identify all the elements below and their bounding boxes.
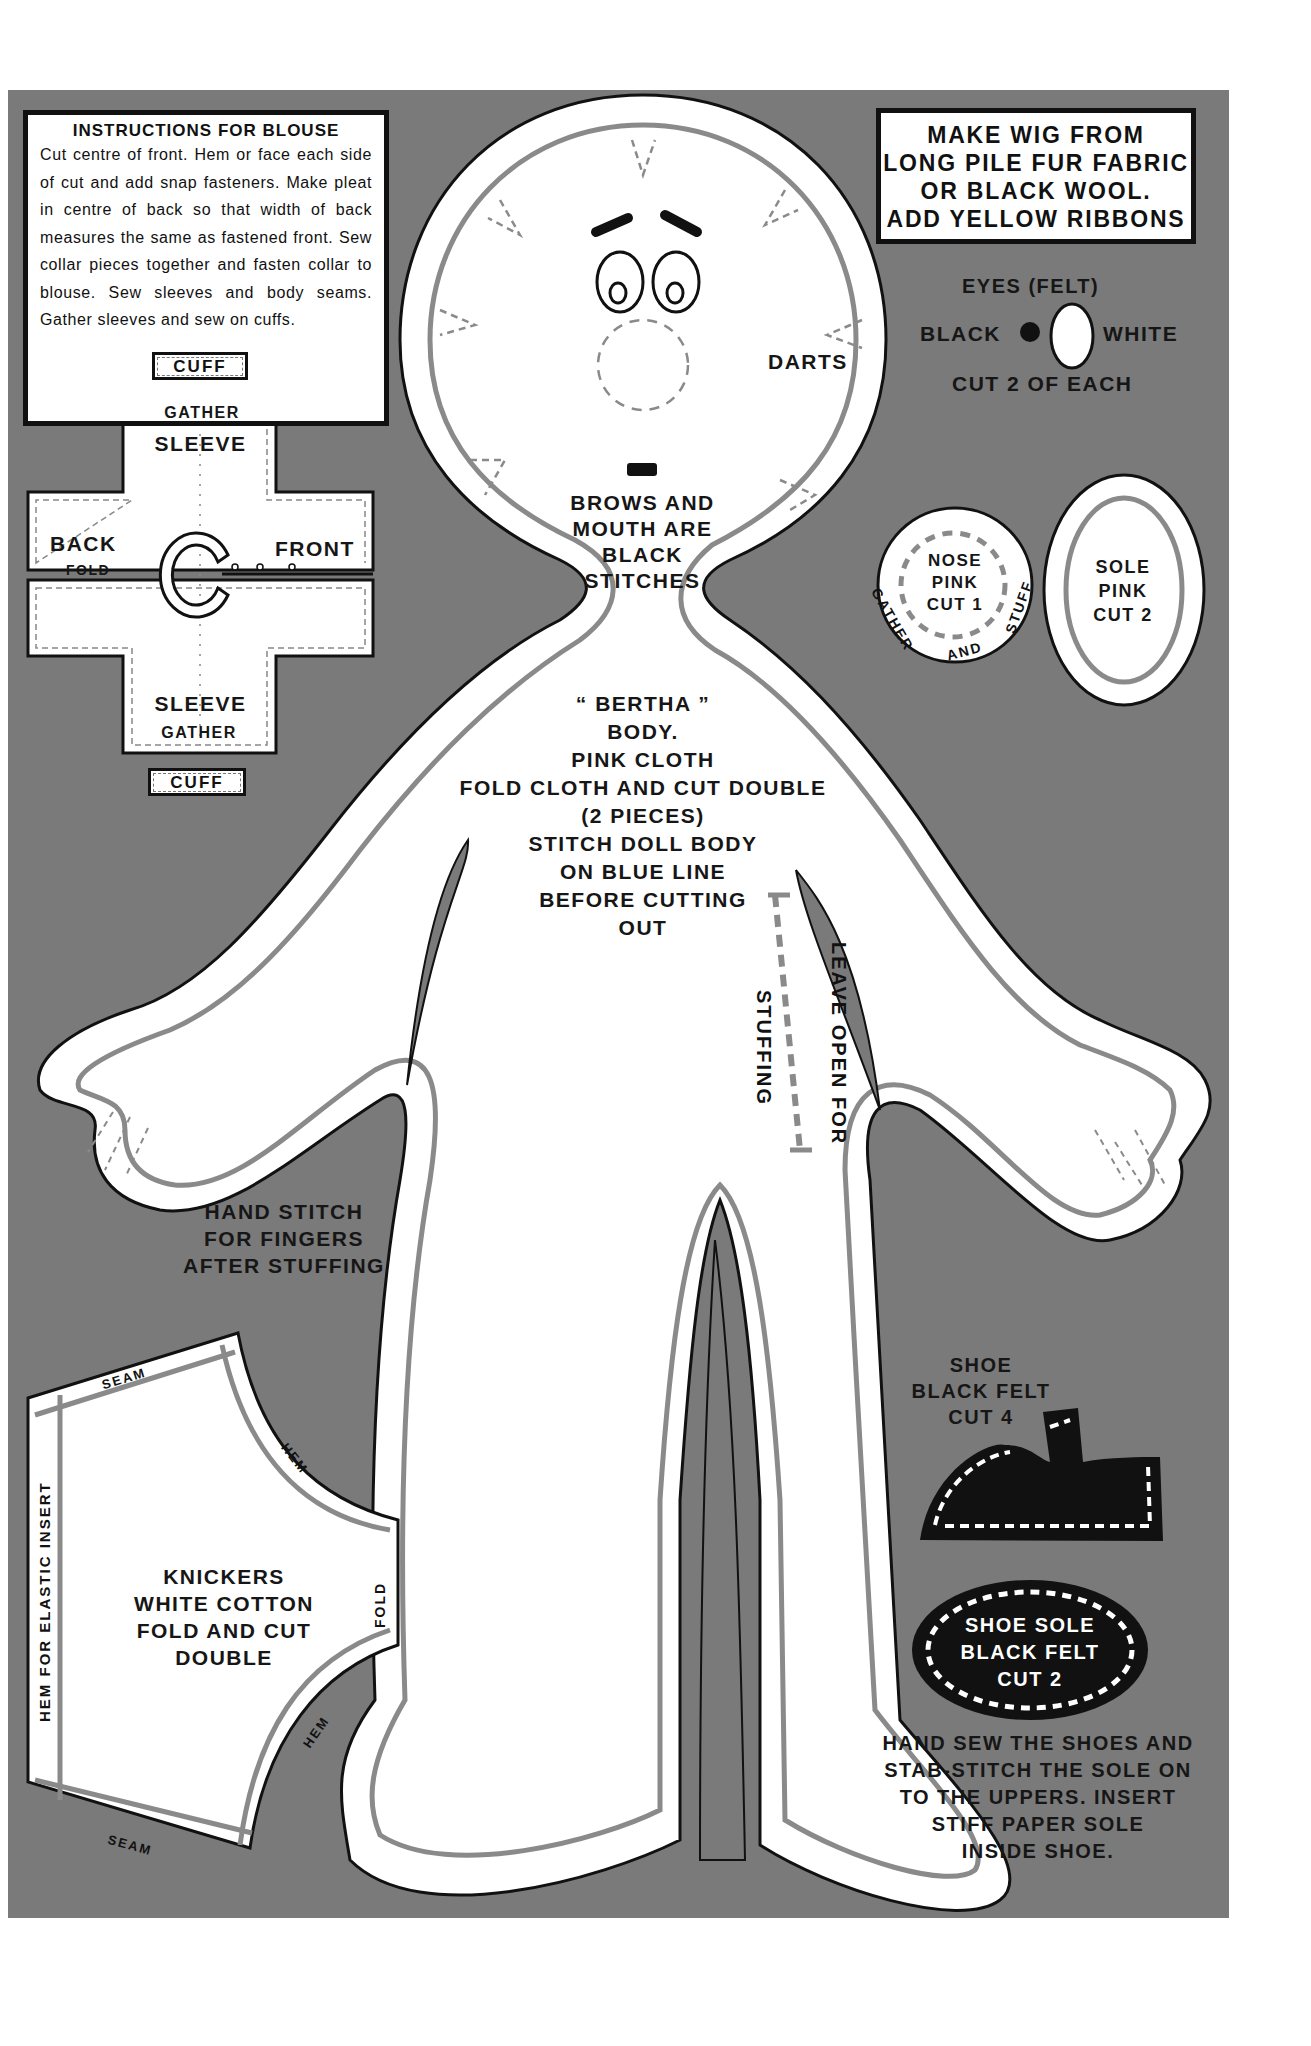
- knickers-elastic-hem-label: HEM FOR ELASTIC INSERT: [36, 1481, 53, 1722]
- cuff-piece-bottom: CUFF: [148, 768, 246, 796]
- cuff-piece-top: CUFF: [152, 352, 248, 380]
- blouse-instructions-text: Cut centre of front. Hem or face each si…: [28, 141, 384, 334]
- hand-stitch-note: HAND STITCH FOR FINGERS AFTER STUFFING: [170, 1198, 398, 1279]
- body-instructions: “ BERTHA ” BODY. PINK CLOTH FOLD CLOTH A…: [420, 690, 866, 942]
- white-eye-sample: [1051, 304, 1093, 368]
- sleeve-gather-top-label: GATHER: [160, 404, 244, 423]
- sleeve-gather-bottom-label: GATHER: [156, 724, 242, 743]
- nose-label: NOSE PINK CUT 1: [905, 550, 1005, 616]
- sleeve-bottom-label: SLEEVE: [148, 692, 253, 717]
- shoe-label: SHOE BLACK FELT CUT 4: [895, 1352, 1067, 1430]
- wig-instructions-box: MAKE WIG FROM LONG PILE FUR FABRIC OR BL…: [876, 108, 1196, 244]
- sleeve-top-label: SLEEVE: [148, 432, 253, 457]
- blouse-instructions-title: INSTRUCTIONS FOR BLOUSE: [28, 121, 384, 141]
- fold-label: FOLD: [66, 562, 110, 579]
- shoe-sole-label: SHOE SOLE BLACK FELT CUT 2: [940, 1612, 1120, 1693]
- mouth-stitch: [627, 463, 657, 476]
- brows-mouth-note: BROWS AND MOUTH ARE BLACK STITCHES: [540, 490, 745, 594]
- sole-label: SOLE PINK CUT 2: [1078, 555, 1168, 627]
- eyes-black-label: BLACK: [920, 322, 1001, 347]
- back-label: BACK: [50, 532, 117, 557]
- eyes-title: EYES (FELT): [962, 275, 1099, 299]
- stuffing-label: STUFFING: [752, 990, 775, 1106]
- darts-label: DARTS: [768, 350, 848, 375]
- shoe-instructions: HAND SEW THE SHOES AND STAB-STITCH THE S…: [848, 1730, 1228, 1865]
- front-label: FRONT: [275, 537, 355, 562]
- eyes-white-label: WHITE: [1103, 322, 1178, 347]
- black-eye-sample: [1020, 322, 1040, 342]
- knickers-label: KNICKERS WHITE COTTON FOLD AND CUT DOUBL…: [118, 1563, 330, 1671]
- knickers-fold-label: FOLD: [372, 1582, 388, 1628]
- leave-open-label: LEAVE OPEN FOR: [827, 942, 850, 1145]
- eyes-cut-label: CUT 2 OF EACH: [952, 372, 1133, 397]
- collar-shape: [160, 533, 228, 617]
